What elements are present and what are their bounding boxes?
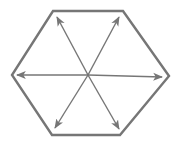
hexagon-outline xyxy=(12,11,169,135)
arrow-down-right-icon xyxy=(88,75,119,129)
arrow-down-left-icon xyxy=(55,75,88,128)
arrow-up-right-icon xyxy=(88,17,119,75)
arrow-up-left-icon xyxy=(57,17,88,75)
arrow-right-icon xyxy=(88,75,162,77)
hexagon-diagram xyxy=(0,0,181,148)
hexagon-arrows-figure xyxy=(0,0,181,148)
